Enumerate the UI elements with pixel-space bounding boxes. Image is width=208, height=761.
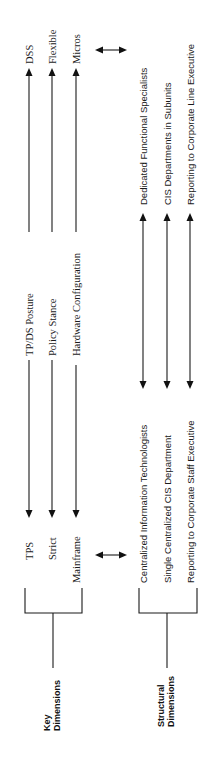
structural-row1-right-label: Dedicated Functional Specialists xyxy=(138,67,149,205)
key-dimensions-bracket xyxy=(25,588,82,668)
key-row2-left-label: Strict xyxy=(47,537,58,560)
structural-row3-left-label: Reporting to Corporate Staff Executive xyxy=(185,421,196,583)
structural-row3-right-label: Reporting to Corporate Line Executive xyxy=(185,44,196,205)
arrowhead-right-icon xyxy=(119,47,127,54)
structural-row1-arrow xyxy=(140,213,147,389)
arrowhead-right-icon xyxy=(119,552,127,559)
structural-dimensions-bracket xyxy=(139,588,197,668)
arrowhead-down-icon xyxy=(164,381,171,389)
arrowhead-down-icon xyxy=(187,381,194,389)
key-row1-left-label: TPS xyxy=(24,542,35,560)
connector-right-double-arrow xyxy=(95,47,127,54)
key-row1-right-label: DSS xyxy=(24,45,35,64)
key-dimensions-label-line2: Dimensions xyxy=(52,680,62,731)
key-row2-arrow xyxy=(49,68,56,518)
key-row1-arrow xyxy=(26,68,33,518)
key-dimensions-label-line1: Key xyxy=(42,714,52,731)
key-row3-left-label: Mainframe xyxy=(71,536,82,583)
structural-row1-left-label: Centralized Information Technologists xyxy=(138,425,149,583)
arrowhead-down-icon xyxy=(140,381,147,389)
arrowhead-down-icon xyxy=(73,510,80,518)
dimensions-diagram: DSS Flexible Micros TP/DS Posture Policy… xyxy=(0,0,208,761)
key-row2-middle-label: Policy Stance xyxy=(47,298,58,356)
structural-row2-left-label: Single Centralized CIS Department xyxy=(162,435,173,583)
structural-row2-arrow xyxy=(164,213,171,389)
structural-dimensions-label-line2: Dimensions xyxy=(166,676,176,727)
structural-dimensions-label-line1: Structural xyxy=(156,684,166,727)
connector-left-double-arrow xyxy=(95,552,127,559)
arrowhead-down-icon xyxy=(49,510,56,518)
structural-row3-arrow xyxy=(187,213,194,389)
arrowhead-down-icon xyxy=(26,510,33,518)
key-row3-middle-label: Hardware Configuration xyxy=(71,252,82,356)
key-row3-right-label: Micros xyxy=(71,34,82,64)
key-row1-middle-label: TP/DS Posture xyxy=(24,293,35,356)
key-row2-right-label: Flexible xyxy=(47,29,58,64)
structural-row2-right-label: CIS Departments in Subunits xyxy=(162,82,173,205)
